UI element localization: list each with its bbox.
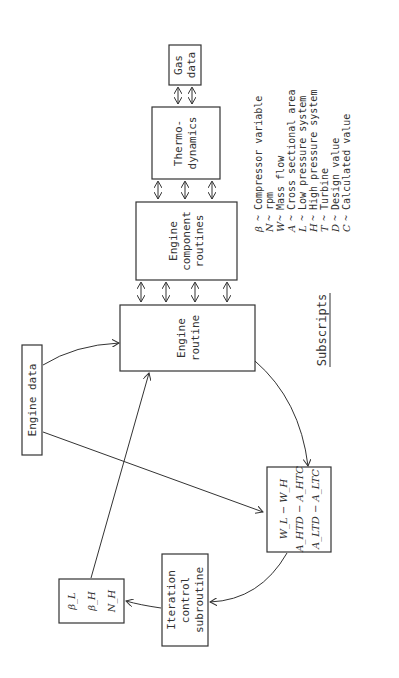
svg-text:~: ~ [341, 215, 352, 221]
ic-line2: control [179, 577, 192, 623]
svg-text:Calculated value: Calculated value [341, 114, 352, 210]
engine-routine-box: Engine routine [120, 305, 255, 371]
svg-text:A: A [286, 225, 297, 233]
svg-text:~: ~ [253, 215, 264, 221]
gas-data-box: Gas data [169, 45, 201, 85]
legend-item: H ~ High pressure system [308, 90, 319, 233]
thermo-line1: Thermo- [172, 120, 185, 166]
var-beta-l: β_L [66, 592, 78, 611]
flow-diagram: Gas data Thermo- dynamics Engine compone… [0, 0, 399, 678]
iteration-to-variables-arrow [126, 601, 161, 608]
svg-text:Turbine: Turbine [319, 168, 330, 210]
residuals-box: W_L − W_H A_HTD − A_HTC A_LTD − A_LTC [267, 466, 331, 553]
thermodynamics-box: Thermo- dynamics [152, 107, 220, 179]
ecr-line2: component [180, 211, 193, 271]
ecr-line1: Engine [167, 221, 180, 261]
legend-item: W ~ Mass flow [275, 155, 286, 232]
svg-text:Cross sectional area: Cross sectional area [286, 90, 297, 210]
component-engine-connectors [141, 283, 227, 302]
engine-data-label: Engine data [26, 364, 39, 437]
var-n-h: N_H [106, 589, 118, 613]
legend-title-group: Subscripts [315, 293, 330, 367]
svg-text:T: T [319, 224, 330, 232]
routine-to-residuals-arrow [255, 361, 308, 466]
var-beta-h: β_H [86, 591, 98, 612]
svg-text:Mass flow: Mass flow [275, 155, 286, 210]
engine-data-to-residuals-arrow [43, 432, 263, 512]
variables-to-routine-arrow [91, 373, 149, 578]
engine-data-box: Engine data [22, 345, 42, 455]
legend-list: β ~ Compressor variable N ~ rpm W ~ Mass… [253, 90, 352, 233]
svg-text:Compressor variable: Compressor variable [253, 96, 264, 210]
svg-text:N: N [264, 222, 275, 233]
engine-data-to-routine-arrow [43, 343, 119, 365]
thermo-line2: dynamics [186, 117, 199, 170]
svg-text:~: ~ [319, 215, 330, 221]
legend-item: D ~ Design value [330, 138, 341, 233]
svg-text:~: ~ [275, 215, 286, 221]
svg-text:W: W [275, 221, 286, 232]
svg-text:D: D [330, 224, 341, 233]
svg-text:~: ~ [286, 215, 297, 221]
svg-text:Design value: Design value [330, 138, 341, 210]
svg-text:High pressure system: High pressure system [308, 90, 319, 210]
iteration-control-box: Iteration control subroutine [162, 554, 208, 646]
svg-text:Low pressure system: Low pressure system [297, 96, 308, 210]
ic-line1: Iteration [165, 570, 178, 630]
gas-data-line1: Gas [172, 55, 185, 75]
er-line1: Engine [175, 318, 188, 358]
ecr-line3: routines [193, 215, 206, 268]
residuals-to-iteration-arrow [210, 553, 287, 602]
svg-text:L: L [297, 225, 308, 233]
svg-text:~: ~ [330, 215, 341, 221]
svg-text:~: ~ [308, 215, 319, 221]
legend-item: T ~ Turbine [319, 168, 330, 232]
residual-mass-flow: W_L − W_H [278, 478, 290, 539]
ic-line3: subroutine [193, 567, 206, 633]
variables-box: β_L β_H N_H [59, 579, 124, 623]
thermo-component-connectors [158, 182, 212, 199]
gas-data-line2: data [185, 52, 198, 79]
svg-text:C: C [341, 224, 352, 232]
svg-text:H: H [308, 223, 319, 233]
legend-title: Subscripts [315, 294, 329, 366]
legend-item: A ~ Cross sectional area [286, 90, 297, 233]
legend-item: N ~ rpm [264, 192, 275, 233]
legend-item: β ~ Compressor variable [253, 96, 264, 233]
legend-item: C ~ Calculated value [341, 114, 352, 232]
gas-thermo-connectors [178, 88, 192, 104]
svg-text:~: ~ [297, 215, 308, 221]
residual-lp-turbine-area: A_LTD − A_LTC [310, 469, 322, 550]
svg-text:β: β [253, 226, 264, 233]
er-line2: routine [189, 315, 202, 361]
residual-hp-turbine-area: A_HTD − A_HTC [294, 466, 306, 553]
svg-text:rpm: rpm [264, 192, 275, 210]
engine-component-routines-box: Engine component routines [136, 202, 237, 280]
legend-item: L ~ Low pressure system [297, 96, 308, 233]
svg-text:~: ~ [264, 215, 275, 221]
